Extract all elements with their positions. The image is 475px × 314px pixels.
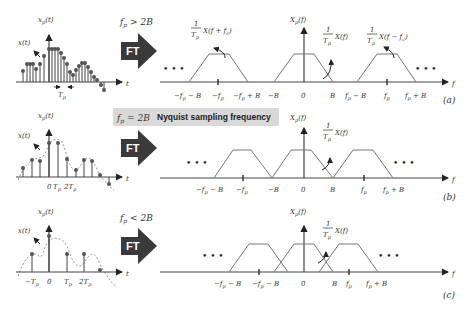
sample-point [21, 69, 25, 73]
svg-text:−fp − B: −fp − B [196, 186, 223, 196]
panel-label-c: (c) [443, 290, 456, 300]
time-plot-a: xp(t) x(t) t Tp [16, 16, 129, 101]
svg-text:B: B [329, 92, 335, 100]
svg-text:−fp: −fp [212, 92, 224, 102]
x-t-pointer-arrow [34, 238, 40, 244]
svg-text:−fp: −fp [236, 186, 248, 196]
replica-left [214, 150, 272, 178]
time-plot-b: xp(t) x(t) t 0 Tp 2Tp [16, 112, 129, 193]
sampling-diagram: xp(t) x(t) t Tp fp > 2B FT • • • • • • X… [0, 0, 475, 314]
ft-label: FT [126, 45, 140, 57]
sample-point [74, 68, 78, 72]
row-b: xp(t) x(t) t 0 Tp 2Tp fp = 2B Nyquist sa… [16, 108, 456, 202]
svg-text:X(f): X(f) [334, 129, 348, 137]
svg-text:1: 1 [326, 220, 330, 228]
row-c: xp(t) x(t) t −Tp 0 Tp 2Tp fp < 2B FT • •… [16, 208, 456, 300]
sample-point [82, 158, 86, 162]
svg-text:0: 0 [301, 280, 306, 288]
ellipsis-left: • • • [202, 251, 224, 261]
svg-text:Tp: Tp [323, 231, 332, 241]
freq-tick-labels-a: −fp − B −fp −fp + B −B 0 B fp − B fp fp … [174, 92, 426, 102]
svg-text:X(f − fc): X(f − fc) [378, 33, 408, 42]
ellipsis-left: • • • [163, 64, 185, 74]
svg-text:−fp − B: −fp − B [214, 280, 241, 290]
freq-plot-b: • • • • • • Xp(f) f 1 Tp X(f) −fp − B −f… [160, 114, 456, 202]
freq-tick-labels-b: −fp − B −fp −B 0 B fp fp + B [196, 186, 404, 196]
t-axis-label: t [126, 175, 129, 183]
sample-point [65, 252, 69, 256]
replica-right [357, 54, 416, 82]
time-plot-c: xp(t) x(t) t −Tp 0 Tp 2Tp [16, 208, 129, 288]
panel-label-b: (b) [443, 192, 456, 202]
sample-point [77, 64, 81, 68]
sample-point [56, 47, 60, 51]
x-t-pointer-arrow [34, 144, 40, 150]
x-t-label: x(t) [18, 227, 30, 235]
sample-point [68, 70, 72, 74]
svg-text:fp + B: fp + B [404, 92, 426, 102]
label-x-f: 1 Tp X(f) [323, 26, 348, 79]
svg-text:X(f): X(f) [334, 33, 348, 41]
freq-tick-labels-c: −fp − B −fp − B 0 B fp fp + B [214, 280, 387, 290]
svg-text:0: 0 [301, 186, 306, 194]
tick-2tp: 2Tp [63, 183, 77, 193]
sample-point [34, 67, 38, 71]
svg-text:0: 0 [301, 92, 306, 100]
period-label: Tp [58, 91, 67, 101]
ft-label: FT [126, 240, 140, 252]
svg-text:fp + B: fp + B [365, 280, 387, 290]
sample-point [65, 62, 69, 66]
svg-text:fp: fp [345, 280, 353, 290]
svg-text:fp: fp [383, 92, 391, 102]
replica-right [333, 150, 393, 178]
ft-arrow-b: FT [121, 130, 157, 166]
svg-text:fp: fp [360, 186, 368, 196]
ft-arrow-c: FT [121, 228, 157, 264]
sample-point [74, 168, 78, 172]
ellipsis-right: • • • [378, 251, 400, 261]
sample-stems [30, 234, 102, 272]
tick-tp: Tp [64, 278, 73, 288]
sample-point [62, 56, 66, 60]
label-x-f-plus-fc: 1 Tp X(f + fc) [191, 20, 232, 58]
freq-plot-c: • • • • • • Xp(f) f 1 Tp X(f) −fp − B −f… [160, 208, 456, 300]
panel-label-a: (a) [443, 95, 456, 105]
freq-plot-a: • • • • • • Xp(f) f 1 Tp X(f + fc) 1 Tp … [160, 16, 456, 105]
ft-arrow-a: FT [121, 33, 157, 69]
sample-point [107, 182, 111, 186]
sample-point [65, 157, 69, 161]
sample-point [102, 88, 106, 92]
label-x-f-minus-fc: 1 Tp X(f − fc) [367, 26, 408, 58]
svg-text:1: 1 [326, 26, 330, 34]
replica-right [319, 244, 378, 272]
tick-2tp: 2Tp [78, 278, 92, 288]
sample-point [71, 73, 75, 77]
sample-stems [21, 47, 106, 92]
svg-text:−fp + B: −fp + B [233, 92, 260, 102]
spectrum-label: Xp(f) [289, 208, 307, 218]
f-axis-label: f [451, 176, 456, 184]
sample-point [56, 141, 60, 145]
sample-point [38, 159, 42, 163]
nyquist-banner-text: Nyquist sampling frequency [157, 112, 271, 122]
sample-point [95, 78, 99, 82]
f-axis-label: f [451, 80, 456, 88]
ft-label: FT [126, 142, 140, 154]
sample-point [83, 61, 87, 65]
x-t-label: x(t) [18, 39, 30, 47]
sample-point [42, 54, 46, 58]
svg-text:X(f + fc): X(f + fc) [202, 27, 232, 36]
row-a: xp(t) x(t) t Tp fp > 2B FT • • • • • • X… [16, 16, 456, 105]
condition-a: fp > 2B [119, 17, 153, 29]
xp-t-label: xp(t) [38, 208, 54, 218]
svg-text:−B: −B [268, 186, 279, 194]
sample-point [47, 234, 51, 238]
sample-point [86, 65, 90, 69]
sample-point [82, 252, 86, 256]
svg-text:−fp − B: −fp − B [252, 280, 279, 290]
tick-0: 0 [47, 183, 52, 191]
condition-c: fp < 2B [119, 213, 153, 225]
svg-text:−fp − B: −fp − B [174, 92, 201, 102]
x-t-label: x(t) [18, 132, 30, 140]
svg-text:1: 1 [370, 26, 374, 34]
